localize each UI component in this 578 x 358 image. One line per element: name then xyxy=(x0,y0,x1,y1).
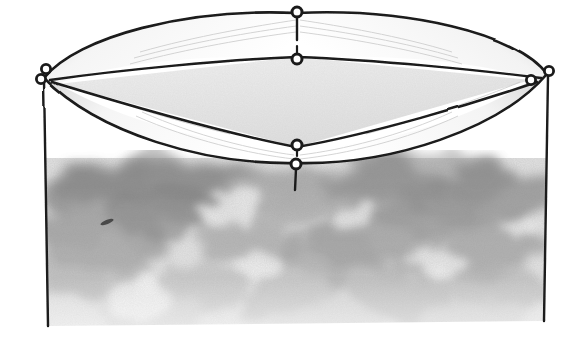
tent-canopy-sketch xyxy=(0,0,578,358)
wall-shading xyxy=(35,152,552,358)
eyelet-right-upper xyxy=(544,66,553,75)
eyelet-right-lower xyxy=(526,75,535,84)
eyelet-left-lower xyxy=(36,74,45,83)
sketch-canvas xyxy=(0,0,578,358)
eyelet-left-upper xyxy=(41,64,50,73)
